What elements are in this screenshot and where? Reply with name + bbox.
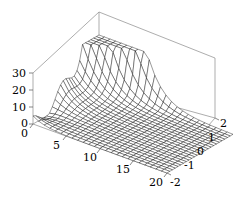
x-tick-10: 10 [83,152,97,163]
y-tick-minus1: -1 [184,160,195,171]
surface-plot-figure: 30 20 10 0 0 5 10 15 20 -2 -1 0 1 2 [0,0,239,199]
z-tick-10: 10 [12,102,26,113]
z-tick-20: 20 [12,85,26,96]
x-tick-5: 5 [53,140,60,151]
z-tick-30: 30 [12,68,26,79]
x-tick-15: 15 [116,164,130,175]
y-tick-2: 2 [220,118,227,129]
x-tick-20: 20 [149,177,163,188]
y-tick-minus2: -2 [170,177,181,188]
y-tick-0: 0 [197,146,204,157]
y-tick-1: 1 [208,132,215,143]
x-tick-0: 0 [21,128,28,139]
